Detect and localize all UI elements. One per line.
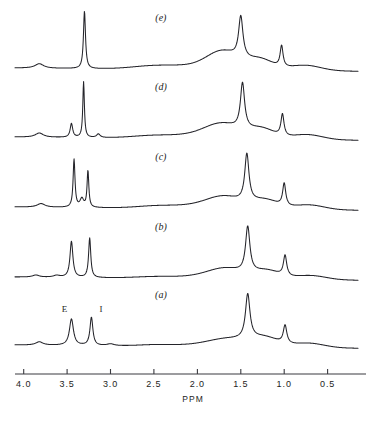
- nmr-spectra-figure: (e)(d)(c)(b)(a) EI 4.03.53.02.52.01.51.0…: [0, 0, 373, 421]
- spectrum-trace-b: [15, 226, 358, 280]
- spectrum-trace-d: [15, 81, 358, 140]
- axis-tick-label: 2.5: [146, 379, 161, 389]
- trace-label-c: (c): [155, 151, 167, 163]
- spectra-canvas: (e)(d)(c)(b)(a) EI 4.03.53.02.52.01.51.0…: [0, 0, 373, 421]
- axis-tick-label: 3.0: [103, 379, 118, 389]
- peak-label-i: I: [100, 304, 103, 314]
- spectrum-trace-a: [15, 293, 358, 348]
- trace-label-d: (d): [155, 81, 167, 93]
- x-axis: 4.03.53.02.52.01.51.00.5PPM: [15, 369, 366, 404]
- axis-tick-label: 4.0: [16, 379, 31, 389]
- trace-labels-group: (e)(d)(c)(b)(a): [155, 12, 167, 301]
- peak-labels-group: EI: [62, 304, 103, 314]
- axis-tick-label: 0.5: [320, 379, 335, 389]
- axis-tick-label: 1.5: [233, 379, 248, 389]
- spectrum-trace-e: [15, 11, 358, 71]
- axis-tick-label: 1.0: [277, 379, 292, 389]
- axis-tick-label: 3.5: [59, 379, 74, 389]
- trace-label-a: (a): [155, 289, 167, 301]
- traces-group: [15, 11, 358, 348]
- axis-title: PPM: [182, 394, 204, 404]
- peak-label-e: E: [62, 304, 68, 314]
- trace-label-e: (e): [155, 12, 167, 24]
- axis-tick-label: 2.0: [190, 379, 205, 389]
- trace-label-b: (b): [155, 221, 167, 233]
- spectrum-trace-c: [15, 153, 358, 210]
